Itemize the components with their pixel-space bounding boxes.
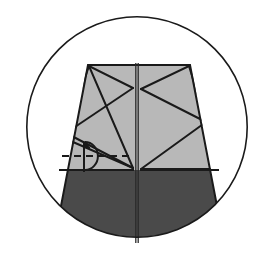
frustum-lower-panel: [54, 170, 224, 242]
crease-pattern-figure: [0, 0, 273, 254]
figure-container: [0, 0, 273, 254]
